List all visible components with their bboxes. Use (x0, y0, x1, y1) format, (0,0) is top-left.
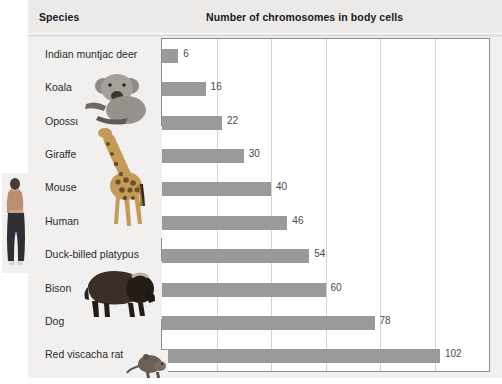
species-label: Indian muntjac deer (45, 48, 137, 60)
chart-bar-row: 102 (162, 349, 491, 363)
chart-bar-value-label: 78 (380, 315, 391, 326)
chart-bar-value-label: 6 (183, 48, 189, 59)
bar-chart-plot-area: 61622304046546078102 (161, 38, 490, 372)
column-header-chromosomes: Number of chromosomes in body cells (206, 11, 403, 23)
species-label: Koala (45, 81, 72, 93)
chart-bar (162, 182, 271, 196)
chart-bar-value-label: 16 (211, 81, 222, 92)
chart-bar-value-label: 30 (249, 148, 260, 159)
bottom-margin (0, 378, 502, 384)
chart-bar-value-label: 46 (292, 215, 303, 226)
species-label: Bison (45, 282, 71, 294)
species-label: Opossum (45, 115, 90, 127)
left-margin (0, 0, 28, 384)
species-label: Mouse (45, 181, 77, 193)
chart-bar-value-label: 102 (445, 348, 462, 359)
chart-bar-row: 16 (162, 82, 491, 96)
chart-bar (162, 283, 326, 297)
chart-bar-row: 6 (162, 49, 491, 63)
chart-bar-value-label: 54 (314, 248, 325, 259)
chart-bar-row: 46 (162, 216, 491, 230)
column-header-species: Species (39, 11, 79, 23)
chart-bar (162, 149, 244, 163)
chart-bar (162, 316, 375, 330)
chart-bar-row: 54 (162, 249, 491, 263)
chart-bar-value-label: 60 (331, 282, 342, 293)
chart-bar-value-label: 40 (276, 181, 287, 192)
species-label: Red viscacha rat (45, 348, 123, 360)
chart-bar-value-label: 22 (227, 115, 238, 126)
chart-bar-row: 40 (162, 182, 491, 196)
chart-bar (162, 216, 287, 230)
chart-bar (162, 116, 222, 130)
species-label: Human (45, 215, 79, 227)
chart-bar (162, 349, 440, 363)
chart-bar (162, 49, 178, 63)
chart-bar (162, 249, 309, 263)
chromosome-count-figure: Species Number of chromosomes in body ce… (0, 0, 502, 384)
chart-bar-row: 22 (162, 116, 491, 130)
species-label: Duck-billed platypus (45, 248, 139, 260)
chart-bar-row: 30 (162, 149, 491, 163)
chart-bar-row: 78 (162, 316, 491, 330)
chart-bar (162, 82, 206, 96)
species-label: Dog (45, 315, 64, 327)
species-label-column: Indian muntjac deerKoalaOpossumGiraffeMo… (28, 37, 161, 384)
species-label: Giraffe (45, 148, 76, 160)
chart-bar-row: 60 (162, 283, 491, 297)
